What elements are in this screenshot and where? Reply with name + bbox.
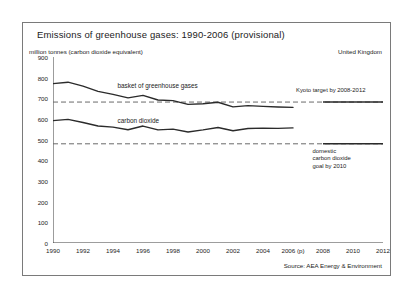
domestic-co2-goal-label: domesticcarbon dioxidegoal by 2010 bbox=[313, 148, 351, 171]
x-axis-tick-label: 2002 bbox=[226, 247, 240, 254]
series-label-basket: basket of greenhouse gases bbox=[118, 82, 198, 89]
x-axis-tick-label: 2008 bbox=[316, 247, 330, 254]
x-axis-tick-label: 1992 bbox=[76, 247, 90, 254]
plot-area: 0100200300400500600700800900 19901992199… bbox=[53, 57, 383, 243]
y-axis-tick-label: 0 bbox=[26, 240, 48, 247]
y-axis-tick-label: 100 bbox=[26, 219, 48, 226]
y-axis-tick-label: 600 bbox=[26, 116, 48, 123]
y-axis-tick-label: 800 bbox=[26, 74, 48, 81]
source-label: Source: AEA Energy & Environment bbox=[284, 262, 382, 269]
y-axis-tick-label: 500 bbox=[26, 136, 48, 143]
x-axis-tick-label: 2012 bbox=[376, 247, 390, 254]
y-axis-tick-label: 900 bbox=[26, 54, 48, 61]
chart-figure: Emissions of greenhouse gases: 1990-2006… bbox=[22, 22, 391, 276]
kyoto-target-label: Kyoto target by 2008-2012 bbox=[296, 87, 365, 93]
page-title: Emissions of greenhouse gases: 1990-2006… bbox=[37, 29, 285, 40]
region-label: United Kingdom bbox=[338, 48, 382, 55]
y-axis-tick-label: 700 bbox=[26, 95, 48, 102]
x-axis-tick-label: 1990 bbox=[46, 247, 60, 254]
series-label-carbon-dioxide: carbon dioxide bbox=[118, 117, 160, 124]
y-axis-tick-label: 200 bbox=[26, 198, 48, 205]
x-axis-tick-label: 2000 bbox=[196, 247, 210, 254]
x-axis-tick-label: 2004 bbox=[256, 247, 270, 254]
x-axis-tick-label: 2010 bbox=[346, 247, 360, 254]
y-axis-tick-label: 300 bbox=[26, 178, 48, 185]
x-axis-tick-label: 1998 bbox=[166, 247, 180, 254]
x-axis-tick-label: 1994 bbox=[106, 247, 120, 254]
y-axis-tick-label: 400 bbox=[26, 157, 48, 164]
x-axis-tick-label: 2006 (p) bbox=[281, 247, 304, 254]
x-axis-tick-label: 1996 bbox=[136, 247, 150, 254]
